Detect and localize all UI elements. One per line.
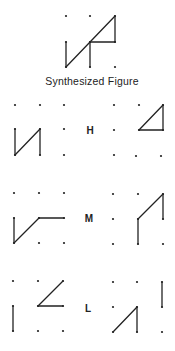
grid-dot (39, 104, 41, 106)
grid-dot (65, 66, 67, 68)
grid-dot (12, 305, 14, 307)
row-m: M (13, 192, 164, 245)
grid-dot (113, 129, 115, 131)
line-segment (139, 105, 163, 130)
right-grid (112, 281, 163, 333)
grid-dot (160, 155, 162, 157)
grid-dot (89, 15, 91, 17)
grid-dot (12, 330, 14, 332)
grid-dot (161, 281, 163, 283)
grid-dot (114, 41, 116, 43)
grid-dot (62, 330, 64, 332)
line-segment (113, 307, 137, 332)
grid-dot (63, 217, 65, 219)
grid-dot (135, 155, 137, 157)
grid-dot (112, 218, 114, 220)
grid-dot (136, 281, 138, 283)
grid-dot (13, 242, 15, 244)
left-grid (12, 280, 64, 332)
grid-dot (63, 104, 65, 106)
grid-dot (62, 305, 64, 307)
grid-dot (13, 192, 15, 194)
grid-dot (39, 154, 41, 156)
dot-grid-figure: Synthesized Figure HML (0, 0, 175, 351)
grid-dot (63, 154, 65, 156)
grid-dot (138, 129, 140, 131)
row-l: L (12, 280, 163, 333)
grid-dot (65, 41, 67, 43)
grid-dot (114, 66, 116, 68)
grid-dot (14, 104, 16, 106)
grid-dot (65, 15, 67, 17)
line-segment (15, 129, 40, 155)
grid-dot (37, 330, 39, 332)
grid-dot (39, 128, 41, 130)
grid-dot (89, 66, 91, 68)
grid-dot (38, 242, 40, 244)
grid-dot (62, 280, 64, 282)
grid-dot (12, 280, 14, 282)
grid-dot (63, 128, 65, 130)
grid-dot (37, 305, 39, 307)
grid-dot (38, 192, 40, 194)
line-segment (14, 218, 39, 243)
grid-dot (112, 281, 114, 283)
grid-dot (162, 218, 164, 220)
grid-dot (162, 104, 164, 106)
grid-dot (137, 193, 139, 195)
synthesized-figure (65, 15, 116, 68)
synthesized-grid (65, 15, 116, 68)
row-label: L (85, 303, 91, 314)
grid-dot (112, 331, 114, 333)
grid-dot (112, 193, 114, 195)
grid-dot (112, 243, 114, 245)
grid-dot (137, 218, 139, 220)
grid-dot (162, 193, 164, 195)
grid-dot (114, 15, 116, 17)
grid-dot (63, 192, 65, 194)
grid-dot (162, 129, 164, 131)
grid-dot (113, 104, 115, 106)
grid-dot (37, 280, 39, 282)
row-label: M (85, 213, 93, 224)
grid-dot (63, 242, 65, 244)
row-label: H (86, 125, 93, 136)
grid-dot (162, 243, 164, 245)
grid-dot (14, 154, 16, 156)
grid-dot (161, 331, 163, 333)
line-segment (138, 194, 163, 219)
grid-dot (89, 41, 91, 43)
right-grid (112, 193, 164, 245)
grid-dot (136, 331, 138, 333)
figure-caption: Synthesized Figure (45, 75, 138, 87)
grid-dot (138, 104, 140, 106)
grid-dot (38, 217, 40, 219)
grid-dot (14, 128, 16, 130)
comparison-rows: HML (12, 104, 164, 333)
left-grid (14, 104, 65, 156)
grid-dot (13, 217, 15, 219)
right-grid (113, 104, 164, 157)
left-grid (13, 192, 65, 244)
line-segment (38, 281, 63, 306)
row-h: H (14, 104, 164, 157)
grid-dot (161, 306, 163, 308)
grid-dot (112, 306, 114, 308)
grid-dot (113, 154, 115, 156)
grid-dot (137, 243, 139, 245)
grid-dot (136, 306, 138, 308)
